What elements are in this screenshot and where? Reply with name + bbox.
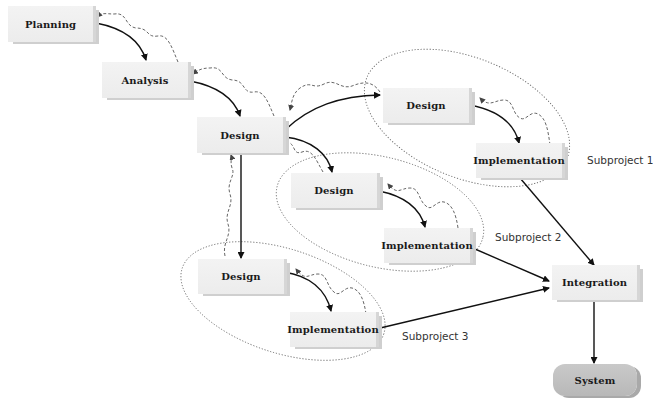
node-system-label: System: [575, 375, 616, 386]
feedback-design-to-analysis: [193, 68, 274, 116]
node-design-sp3-label: Design: [221, 271, 260, 282]
arrow-design-to-sp1-design: [285, 95, 380, 130]
node-design-sp2-label: Design: [314, 185, 353, 196]
node-design-main: Design: [197, 117, 286, 153]
node-design-subproject-3: Design: [198, 259, 287, 294]
arrow-analysis-to-design: [190, 81, 240, 116]
arrow-sp2-impl-to-integration: [468, 246, 549, 281]
feedback-analysis-to-planning: [97, 14, 178, 62]
node-impl-sp3-label: Implementation: [287, 324, 378, 335]
arrow-sp1-design-to-impl: [470, 105, 519, 143]
subproject-1-label: Subproject 1: [587, 154, 653, 166]
node-implementation-subproject-2: Implementation: [384, 228, 473, 263]
arrow-sp3-design-to-impl: [284, 272, 331, 311]
node-planning: Planning: [8, 6, 96, 42]
node-design-subproject-2: Design: [291, 173, 380, 208]
subproject-2-group-outline: [264, 133, 496, 291]
feedback-sp1-impl-to-design: [480, 98, 550, 145]
subproject-2-label: Subproject 2: [495, 231, 561, 243]
node-system: System: [553, 364, 637, 396]
feedback-sp3-impl-to-design: [296, 269, 366, 314]
node-implementation-subproject-1: Implementation: [476, 143, 565, 178]
node-design-main-label: Design: [220, 130, 259, 141]
subproject-3-label: Subproject 3: [402, 330, 468, 342]
subproject-3-group-outline: [166, 219, 400, 383]
arrow-design-to-sp2-design: [285, 137, 332, 172]
node-integration-label: Integration: [562, 277, 627, 288]
arrow-sp3-impl-to-integration: [376, 288, 549, 329]
feedback-sp3-design-to-design: [224, 155, 233, 256]
node-analysis-label: Analysis: [122, 75, 169, 86]
node-implementation-subproject-3: Implementation: [290, 312, 379, 347]
arrow-sp1-impl-to-integration: [520, 178, 594, 265]
node-design-subproject-1: Design: [383, 88, 472, 123]
node-impl-sp1-label: Implementation: [473, 155, 564, 166]
arrow-sp2-design-to-impl: [379, 191, 425, 227]
node-integration: Integration: [552, 265, 640, 300]
node-impl-sp2-label: Implementation: [381, 240, 472, 251]
node-design-sp1-label: Design: [406, 100, 445, 111]
node-planning-label: Planning: [25, 19, 76, 30]
node-analysis: Analysis: [102, 62, 191, 98]
